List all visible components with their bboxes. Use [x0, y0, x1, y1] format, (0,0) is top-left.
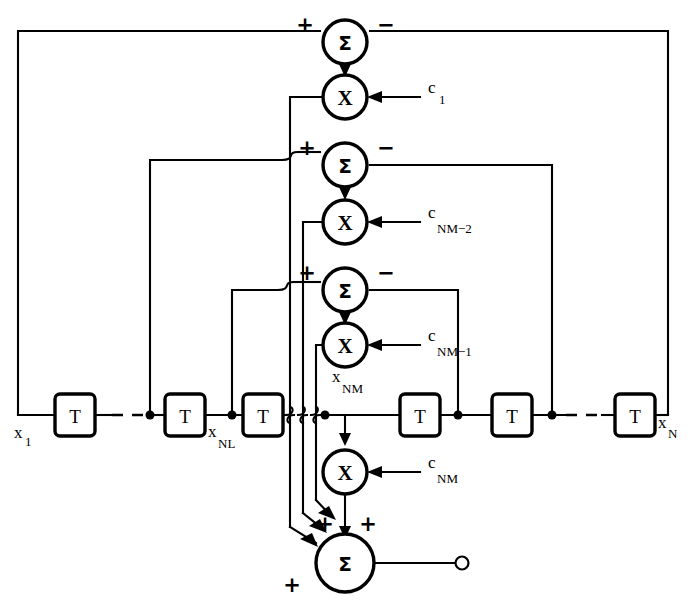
- stage2-feedback-left-path: [150, 152, 320, 415]
- signal-label-xNM-base: x: [332, 367, 341, 386]
- stage1-feedback-left-path: [18, 31, 320, 415]
- delay-block-1-label: T: [69, 406, 81, 427]
- delay-block-2: T: [165, 394, 205, 436]
- stage1-coefficient-sub: 1: [439, 92, 446, 107]
- stage2-summer: Σ: [323, 143, 367, 187]
- stage1-summer-minus-sign: −: [377, 13, 395, 37]
- stage2-summer-to-multiplier: [339, 187, 351, 200]
- stage2-coefficient-base: c: [428, 203, 436, 222]
- output-multiplier-glyph: X: [337, 461, 352, 485]
- delay-block-5: T: [492, 394, 532, 436]
- delay-block-6-label: T: [629, 406, 641, 427]
- stage2-multiplier: X: [323, 200, 367, 244]
- delay-block-6: T: [615, 394, 655, 436]
- output-summer-glyph: Σ: [338, 552, 352, 576]
- output-summer: Σ: [316, 534, 374, 592]
- output-coefficient-sub: NM: [437, 471, 458, 486]
- stage1-coefficient-arrow: [367, 91, 420, 103]
- stage2-summer-minus-sign: −: [377, 136, 395, 160]
- signal-label-x1-base: x: [14, 423, 23, 442]
- output-terminal: [456, 557, 469, 570]
- delay-block-3-label: T: [257, 406, 269, 427]
- delay-block-5-label: T: [506, 406, 518, 427]
- delay-block-4-label: T: [414, 406, 426, 427]
- stage2-summer-glyph: Σ: [338, 154, 352, 178]
- stage3-coefficient-base: c: [428, 326, 436, 345]
- stage3-coefficient-arrow: [367, 339, 420, 351]
- delay-block-4: T: [400, 394, 440, 436]
- stage3-summer-plus-sign: +: [298, 261, 316, 285]
- output-multiplier-to-summer: [339, 494, 351, 539]
- stage1-multiplier-glyph: X: [337, 86, 352, 110]
- stage3-multiplier-glyph: X: [337, 334, 352, 358]
- stage1-summer: Σ: [323, 20, 367, 64]
- stage1-coefficient-base: c: [428, 78, 436, 97]
- output-summer-plus-sign-bottom: +: [283, 573, 301, 597]
- output-summer-plus-sign-right: +: [359, 512, 377, 536]
- stage1-summer-plus-sign: +: [296, 13, 314, 37]
- stage2-coefficient-sub: NM−2: [437, 221, 472, 236]
- output-summer-plus-sign-left: +: [316, 512, 334, 536]
- signal-label-xN-sub: N: [668, 426, 678, 441]
- signal-label-xNL-sub: NL: [218, 436, 235, 451]
- stage3-summer-glyph: Σ: [338, 279, 352, 303]
- output-multiplier: X: [323, 450, 367, 494]
- stage3-summer-minus-sign: −: [377, 261, 395, 285]
- signal-label-xNM-sub: NM: [342, 381, 363, 396]
- stage3-multiplier: X: [323, 323, 367, 367]
- signal-flow-diagram: Σ + − X c 1: [0, 0, 691, 614]
- stage2-summer-plus-sign: +: [298, 136, 316, 160]
- stage2-multiplier-glyph: X: [337, 211, 352, 235]
- output-coefficient-base: c: [428, 453, 436, 472]
- output-tap-path: [339, 415, 351, 446]
- delay-block-2-label: T: [179, 406, 191, 427]
- output-terminal-path: [374, 557, 469, 570]
- signal-label-xN-base: x: [658, 413, 667, 432]
- stage2-coefficient-arrow: [367, 216, 420, 228]
- delay-block-3: T: [243, 394, 283, 436]
- stage1-multiplier-output-path: [290, 97, 323, 547]
- stage1-summer-glyph: Σ: [338, 31, 352, 55]
- delay-block-1: T: [55, 394, 95, 436]
- signal-label-xNL-base: x: [208, 422, 217, 441]
- stage3-coefficient-sub: NM−1: [437, 344, 472, 359]
- stage1-multiplier: X: [323, 75, 367, 119]
- stage3-summer: Σ: [323, 268, 367, 312]
- diagram-canvas: Σ + − X c 1: [0, 0, 691, 614]
- signal-label-x1-sub: 1: [25, 434, 32, 449]
- output-coefficient-arrow: [367, 466, 420, 478]
